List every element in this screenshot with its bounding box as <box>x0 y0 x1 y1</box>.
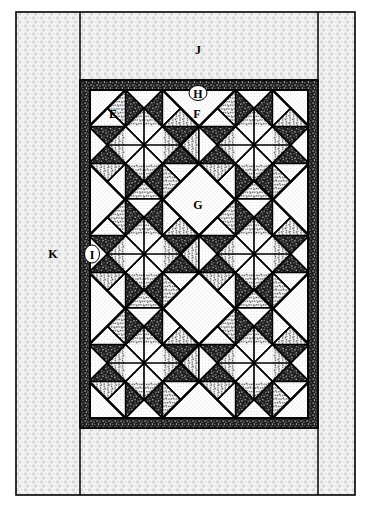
label-I-text: I <box>90 248 95 262</box>
quilt-diagram-stage: J K H I E F <box>0 0 371 508</box>
quilt-center-field <box>70 71 327 436</box>
label-G: G <box>193 198 202 212</box>
label-G-text: G <box>193 198 202 212</box>
label-H: H <box>189 86 207 101</box>
quilt-diagram-svg: J K H I E F <box>0 0 371 508</box>
label-F: F <box>193 107 200 121</box>
label-F-text: F <box>193 107 200 121</box>
label-I: I <box>85 245 100 263</box>
label-J-text: J <box>195 43 201 57</box>
label-K: K <box>48 247 58 261</box>
on-point-block-grid <box>70 71 327 436</box>
label-E: E <box>109 107 117 121</box>
label-E-text: E <box>109 107 117 121</box>
label-K-text: K <box>48 247 58 261</box>
label-J: J <box>195 43 201 57</box>
label-H-text: H <box>193 87 203 101</box>
